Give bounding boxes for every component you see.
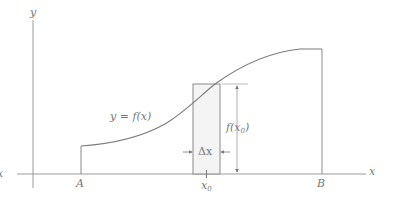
strip-height-label: f(x0) [226, 122, 249, 135]
x-axis-left-label: x [0, 168, 3, 179]
strip-width-label: Δx [198, 146, 212, 157]
area-under-curve-diagram [0, 0, 396, 197]
x0-label: x0 [201, 180, 212, 193]
strip-rectangle [193, 84, 220, 174]
y-axis-label: y [30, 7, 36, 18]
point-a-label: A [76, 178, 84, 189]
strip-height-f: f(x [226, 121, 241, 134]
strip-height-close: ) [245, 121, 249, 134]
curve-label: y = f(x) [110, 111, 151, 122]
point-b-label: B [317, 178, 325, 189]
x-axis-label: x [369, 166, 375, 177]
x0-subscript: 0 [207, 185, 211, 193]
